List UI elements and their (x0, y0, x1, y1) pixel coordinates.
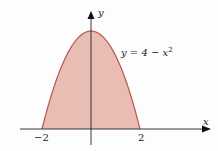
y-axis-label: y (98, 8, 104, 18)
x-axis-label: x (203, 117, 209, 127)
tick-label-neg2: −2 (34, 133, 49, 143)
equation-text: y = 4 − x (121, 47, 168, 58)
equation-exponent: 2 (168, 46, 172, 54)
y-axis-arrow-icon (88, 11, 95, 19)
equation-label: y = 4 − x2 (121, 47, 173, 58)
chart-canvas (0, 0, 218, 151)
tick-label-2: 2 (138, 133, 144, 143)
parabola-figure: y x −2 2 y = 4 − x2 (0, 0, 218, 151)
